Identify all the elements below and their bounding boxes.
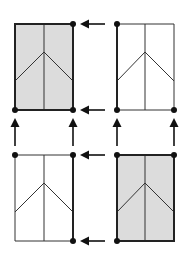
arrow-left-top-row-bottom xyxy=(80,106,105,115)
arrow-up-left-col-2 xyxy=(69,118,78,146)
vertex-dot xyxy=(171,107,177,113)
vertex-dot xyxy=(114,238,120,244)
arrow-up-right-col-2 xyxy=(170,118,179,146)
arrow-up-right-col-1 xyxy=(113,118,122,146)
vertex-dot xyxy=(12,152,18,158)
arrow-left-bottom-row-top xyxy=(80,151,105,160)
panel-top-left xyxy=(12,21,76,113)
vertex-dot xyxy=(70,107,76,113)
arrow-left-bottom-row-bottom xyxy=(80,237,105,246)
panel-top-right xyxy=(114,21,177,113)
vertex-dot xyxy=(114,152,120,158)
vertex-dot xyxy=(114,21,120,27)
vertex-dot xyxy=(70,21,76,27)
panel-bottom-left xyxy=(12,152,76,244)
panel-bottom-right xyxy=(114,152,177,244)
vertex-dot xyxy=(114,107,120,113)
arrow-left-top-row-top xyxy=(80,20,105,29)
vertex-dot xyxy=(171,152,177,158)
vertex-dot xyxy=(70,152,76,158)
arrow-up-left-col-1 xyxy=(11,118,20,146)
vertex-dot xyxy=(70,238,76,244)
vertex-dot xyxy=(12,107,18,113)
folding-diagram xyxy=(0,0,188,263)
